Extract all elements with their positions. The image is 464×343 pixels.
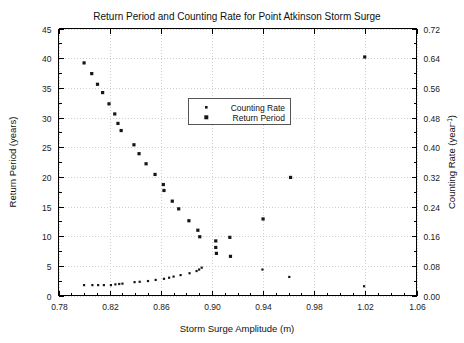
y-tick-label: 25	[42, 143, 52, 153]
y2-tick-label: 0.56	[424, 84, 441, 94]
data-point-counting-rate	[198, 268, 200, 270]
chart-title: Return Period and Counting Rate for Poin…	[93, 11, 381, 22]
data-point-return-period	[137, 152, 140, 155]
x-tick-label: 0.94	[255, 302, 272, 312]
legend-label-counting-rate: Counting Rate	[231, 103, 286, 113]
data-point-counting-rate	[83, 284, 85, 286]
data-point-counting-rate	[201, 267, 203, 269]
data-point-return-period	[177, 207, 180, 210]
chart-figure: 0510152025303540450.000.080.160.240.320.…	[0, 0, 464, 343]
figure-background	[0, 0, 464, 343]
data-point-counting-rate	[118, 283, 120, 285]
data-point-counting-rate	[114, 283, 116, 285]
data-point-return-period	[132, 143, 135, 146]
data-point-return-period	[107, 102, 110, 105]
y-tick-label: 40	[42, 54, 52, 64]
legend-label-return-period: Return Period	[233, 113, 286, 123]
data-point-return-period	[171, 200, 174, 203]
data-point-counting-rate	[180, 274, 182, 276]
y-tick-label: 15	[42, 203, 52, 213]
data-point-return-period	[196, 229, 199, 232]
data-point-counting-rate	[121, 283, 123, 285]
x-tick-label: 0.90	[204, 302, 221, 312]
y2-tick-label: 0.40	[424, 143, 441, 153]
x-tick-label: 1.02	[357, 302, 374, 312]
data-point-counting-rate	[133, 281, 135, 283]
legend-marker-counting-rate	[205, 106, 208, 109]
y-tick-label: 5	[47, 262, 52, 272]
x-tick-label: 0.78	[51, 302, 68, 312]
y2-tick-label: 0.00	[424, 292, 441, 302]
data-point-return-period	[120, 129, 123, 132]
data-point-return-period	[113, 112, 116, 115]
y2-axis-title: Counting Rate (year-1)	[446, 115, 457, 209]
data-point-return-period	[82, 61, 85, 64]
data-point-counting-rate	[91, 284, 93, 286]
data-point-return-period	[153, 173, 156, 176]
data-point-return-period	[144, 162, 147, 165]
data-point-return-period	[198, 235, 201, 238]
data-point-counting-rate	[155, 279, 157, 281]
x-tick-label: 0.82	[102, 302, 119, 312]
y-tick-label: 10	[42, 232, 52, 242]
data-point-return-period	[228, 236, 231, 239]
data-point-counting-rate	[188, 272, 190, 274]
x-tick-label: 1.06	[409, 302, 426, 312]
data-point-counting-rate	[195, 270, 197, 272]
data-point-counting-rate	[172, 275, 174, 277]
y2-tick-label: 0.16	[424, 232, 441, 242]
y-tick-label: 35	[42, 84, 52, 94]
y2-tick-label: 0.72	[424, 25, 441, 35]
y2-tick-label: 0.08	[424, 262, 441, 272]
y2-tick-label: 0.48	[424, 114, 441, 124]
chart-canvas: 0510152025303540450.000.080.160.240.320.…	[0, 0, 464, 343]
data-point-counting-rate	[168, 277, 170, 279]
data-point-counting-rate	[97, 284, 99, 286]
y-tick-label: 30	[42, 114, 52, 124]
data-point-counting-rate	[110, 284, 112, 286]
data-point-return-period	[229, 255, 232, 258]
data-point-return-period	[214, 239, 217, 242]
data-point-return-period	[363, 55, 366, 58]
data-point-counting-rate	[139, 281, 141, 283]
data-point-return-period	[101, 91, 104, 94]
data-point-counting-rate	[163, 278, 165, 280]
data-point-counting-rate	[103, 284, 105, 286]
data-point-return-period	[162, 183, 165, 186]
y2-tick-label: 0.24	[424, 203, 441, 213]
data-point-counting-rate	[147, 280, 149, 282]
data-point-return-period	[90, 72, 93, 75]
data-point-return-period	[289, 176, 292, 179]
data-point-counting-rate	[288, 276, 290, 278]
x-axis-title: Storm Surge Amplitude (m)	[180, 323, 295, 334]
y-axis-title: Return Period (years)	[7, 117, 18, 208]
chart-legend[interactable]: Counting Rate Return Period	[189, 99, 291, 125]
y-tick-label: 45	[42, 25, 52, 35]
y2-tick-label: 0.32	[424, 173, 441, 183]
y2-tick-label: 0.64	[424, 54, 441, 64]
y-tick-label: 0	[47, 292, 52, 302]
data-point-return-period	[261, 217, 264, 220]
data-point-return-period	[215, 252, 218, 255]
legend-marker-return-period	[204, 115, 208, 119]
y-tick-label: 20	[42, 173, 52, 183]
x-tick-label: 0.98	[306, 302, 323, 312]
data-point-return-period	[162, 189, 165, 192]
x-tick-label: 0.86	[153, 302, 170, 312]
data-point-counting-rate	[261, 268, 263, 270]
data-point-counting-rate	[363, 285, 365, 287]
data-point-return-period	[116, 122, 119, 125]
data-point-return-period	[187, 219, 190, 222]
data-point-return-period	[96, 83, 99, 86]
data-point-return-period	[214, 246, 217, 249]
